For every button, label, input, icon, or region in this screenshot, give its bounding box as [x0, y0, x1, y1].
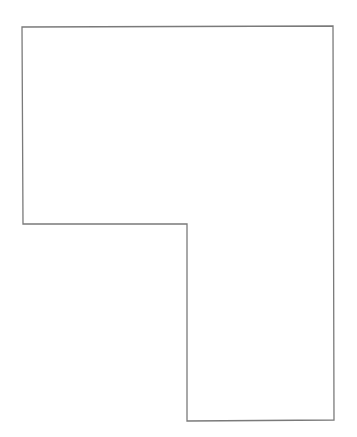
diagram-canvas: [0, 0, 357, 437]
